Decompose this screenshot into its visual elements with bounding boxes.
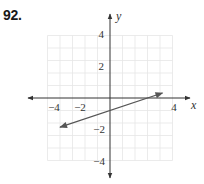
tick-x-4: 4 bbox=[171, 101, 177, 113]
tick-x-neg2: −2 bbox=[74, 101, 86, 113]
x-axis-label: x bbox=[190, 98, 197, 112]
tick-y-neg2: −2 bbox=[93, 123, 105, 135]
tick-y-neg4: −4 bbox=[93, 155, 105, 167]
tick-y-2: 2 bbox=[99, 60, 105, 72]
y-axis-label: y bbox=[115, 9, 122, 23]
tick-y-4: 4 bbox=[99, 28, 105, 40]
coordinate-plane: −4 −2 4 4 2 −2 −4 x y bbox=[0, 0, 204, 184]
tick-x-neg4: −4 bbox=[48, 101, 60, 113]
